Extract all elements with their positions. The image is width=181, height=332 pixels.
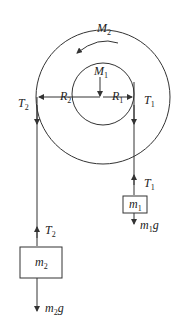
rotation-arrow-icon xyxy=(77,41,118,53)
label-m1g: m1g xyxy=(140,218,159,234)
label-T2-block: T2 xyxy=(45,223,56,239)
pulley-diagram: M2 M1 R2 R1 T2 T1 T1 m1 m1g T2 m2 m2g xyxy=(0,0,181,332)
label-R1: R1 xyxy=(111,89,123,105)
label-R2: R2 xyxy=(59,89,71,105)
label-M2: M2 xyxy=(96,21,111,37)
label-T1-top: T1 xyxy=(144,93,155,109)
label-T1-block: T1 xyxy=(144,176,155,192)
label-M1: M1 xyxy=(93,64,108,80)
label-T2-top: T2 xyxy=(18,96,29,112)
label-m2g: m2g xyxy=(45,301,64,317)
